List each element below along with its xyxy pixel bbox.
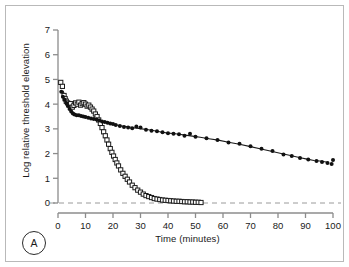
figure-panel: 012345670102030405060708090100 Log relat… [0, 0, 349, 267]
x-tick-label: 70 [245, 220, 256, 231]
data-point-slow-recovery [227, 140, 231, 144]
data-point-rapid-recovery [60, 84, 64, 88]
data-point-slow-recovery [130, 126, 134, 130]
data-point-slow-recovery [306, 158, 310, 162]
data-point-slow-recovery [216, 138, 220, 142]
data-point-slow-recovery [188, 132, 192, 136]
data-point-slow-recovery [161, 130, 165, 134]
data-point-rapid-recovery [103, 134, 107, 138]
x-tick-label: 80 [273, 220, 284, 231]
x-tick-label: 20 [108, 220, 119, 231]
y-tick-label: 0 [45, 197, 50, 208]
x-axis-label: Time (minutes) [60, 233, 315, 244]
y-tick-label: 7 [45, 24, 50, 35]
data-point-slow-recovery [166, 131, 170, 135]
data-point-slow-recovery [144, 128, 148, 132]
x-tick-label: 30 [135, 220, 146, 231]
data-point-slow-recovery [330, 162, 334, 166]
x-tick-label: 40 [163, 220, 174, 231]
data-point-slow-recovery [59, 90, 63, 94]
data-point-slow-recovery [320, 160, 324, 164]
data-point-slow-recovery [118, 124, 122, 128]
data-point-slow-recovery [238, 142, 242, 146]
data-point-slow-recovery [298, 156, 302, 160]
data-point-slow-recovery [139, 126, 143, 130]
data-point-slow-recovery [271, 149, 275, 153]
data-point-slow-recovery [134, 124, 138, 128]
x-tick-label: 60 [218, 220, 229, 231]
panel-label: A [22, 231, 46, 255]
y-axis-label: Log relative threshold elevation [20, 26, 31, 196]
y-tick-label: 6 [45, 49, 50, 60]
x-tick-label: 100 [325, 220, 341, 231]
data-point-rapid-recovery [100, 126, 104, 130]
data-point-slow-recovery [282, 153, 286, 157]
data-point-slow-recovery [122, 125, 126, 129]
x-tick-label: 0 [55, 220, 60, 231]
data-point-slow-recovery [260, 147, 264, 151]
data-point-rapid-recovery [105, 138, 109, 142]
x-tick-label: 90 [300, 220, 311, 231]
data-point-slow-recovery [290, 154, 294, 158]
data-point-slow-recovery [172, 132, 176, 136]
data-point-slow-recovery [205, 136, 209, 140]
data-point-slow-recovery [183, 134, 187, 138]
y-tick-label: 5 [45, 74, 50, 85]
data-point-slow-recovery [249, 144, 253, 148]
data-point-slow-recovery [194, 135, 198, 139]
y-tick-label: 4 [45, 99, 50, 110]
chart-canvas: 012345670102030405060708090100 [0, 0, 349, 267]
data-point-slow-recovery [326, 161, 330, 165]
data-point-rapid-recovery [199, 200, 203, 204]
y-tick-label: 3 [45, 123, 50, 134]
data-point-slow-recovery [331, 158, 335, 162]
data-point-rapid-recovery [107, 142, 111, 146]
y-tick-label: 2 [45, 148, 50, 159]
x-tick-label: 10 [80, 220, 91, 231]
data-point-slow-recovery [114, 123, 118, 127]
data-point-slow-recovery [315, 159, 319, 163]
x-tick-label: 50 [190, 220, 201, 231]
data-point-slow-recovery [126, 126, 130, 130]
data-point-slow-recovery [155, 129, 159, 133]
y-tick-label: 1 [45, 173, 50, 184]
data-point-slow-recovery [177, 132, 181, 136]
data-point-slow-recovery [150, 129, 154, 133]
